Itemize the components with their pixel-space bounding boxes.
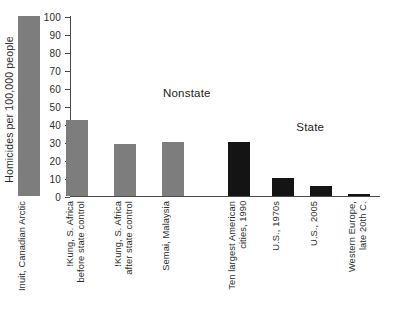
y-tick-mark (65, 197, 70, 198)
x-category-label-6: U.S., 1970s (271, 201, 299, 251)
x-category-label-1: Inuit, Canadian Arctic (17, 201, 45, 291)
y-tick-label: 0 (55, 192, 61, 203)
y-tick-mark (65, 53, 70, 54)
y-tick-mark (65, 35, 70, 36)
y-tick-label: 90 (49, 30, 61, 41)
bar-5 (228, 142, 250, 196)
y-tick-label: 50 (49, 102, 61, 113)
y-tick-label: 60 (49, 84, 61, 95)
x-category-label-7: U.S., 2005 (309, 201, 337, 246)
y-tick-mark (65, 71, 70, 72)
group-label-nonstate: Nonstate (163, 87, 211, 99)
y-tick-label: 10 (49, 174, 61, 185)
bar-2 (66, 120, 88, 196)
y-tick-label: 40 (49, 120, 61, 131)
bar-1 (18, 16, 40, 196)
x-category-label-4: Semai, Malaysia (161, 201, 189, 271)
y-tick-label: 70 (49, 66, 61, 77)
bar-7 (310, 186, 332, 196)
y-tick-label: 80 (49, 48, 61, 59)
y-tick-mark (65, 17, 70, 18)
y-tick-mark (65, 89, 70, 90)
bar-3 (114, 144, 136, 196)
x-category-label-5: Ten largest American cities, 1990 (227, 201, 255, 290)
homicide-rate-bar-chart: Homicides per 100,000 people per year 01… (0, 0, 399, 313)
bar-8 (348, 194, 370, 196)
y-tick-label: 30 (49, 138, 61, 149)
x-category-label-2: !Kung, S. Africa before state control (65, 201, 93, 283)
plot-area: 0102030405060708090100 NonstateState (70, 16, 380, 197)
x-category-label-8: Western Europe, late 20th C. (347, 201, 375, 272)
x-category-label-3: !Kung, S. Africa after state control (113, 201, 141, 275)
bar-6 (272, 178, 294, 196)
y-tick-mark (65, 107, 70, 108)
group-label-state: State (296, 121, 324, 133)
x-axis-line (70, 196, 380, 197)
bar-4 (162, 142, 184, 196)
y-tick-label: 20 (49, 156, 61, 167)
y-tick-label: 100 (44, 12, 61, 23)
